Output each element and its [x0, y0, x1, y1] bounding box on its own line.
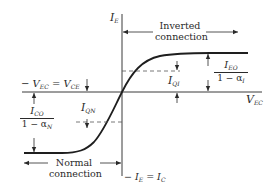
vce-sub: CE	[71, 83, 80, 90]
ieo-den-sub: I	[242, 77, 244, 84]
normal-connection-caption: Normal connection	[48, 157, 100, 179]
normal-caption-line2: connection	[49, 168, 102, 179]
vce-main: = V	[49, 78, 71, 89]
ieo-den-main: 1 − α	[217, 73, 242, 83]
negative-ie-label: − IE = IC	[124, 172, 165, 183]
transistor-characteristic-diagram: IE VEC − VEC = VCE − IE = IC Inverted co…	[0, 0, 274, 187]
ico-num-sub: CO	[34, 110, 44, 117]
negative-vec-label: − VEC = VCE	[21, 79, 80, 90]
iqn-sub: QN	[85, 107, 95, 114]
horizontal-axis-label-sub: EC	[254, 99, 263, 106]
horizontal-axis-label: VEC	[246, 94, 263, 106]
normal-caption-line1: Normal	[56, 157, 92, 168]
vertical-axis-label-sub: E	[114, 17, 118, 24]
inverted-connection-caption: Inverted connection	[154, 20, 206, 42]
neg-vec-sub: EC	[40, 83, 49, 90]
iqi-sub: QI	[172, 80, 179, 87]
vertical-axis-label: IE	[110, 12, 119, 24]
ic-main: = I	[143, 171, 161, 182]
iqi-label: IQI	[168, 75, 180, 87]
diagram-graphics	[0, 0, 274, 187]
ieo-fraction: IEO 1 − αI	[214, 60, 248, 84]
inverted-caption-line1: Inverted	[160, 20, 201, 31]
neg-vec-main: − V	[21, 78, 40, 89]
ico-den-main: 1 − α	[22, 119, 47, 129]
ico-den-sub: N	[47, 123, 52, 130]
horizontal-axis-label-main: V	[246, 93, 254, 106]
ieo-num-sub: EO	[228, 64, 237, 71]
neg-ie-main: − I	[124, 171, 139, 182]
ico-fraction: ICO 1 − αN	[20, 106, 54, 130]
iqn-label: IQN	[81, 102, 96, 114]
ic-sub: C	[161, 176, 166, 183]
inverted-caption-line2: connection	[155, 31, 208, 42]
